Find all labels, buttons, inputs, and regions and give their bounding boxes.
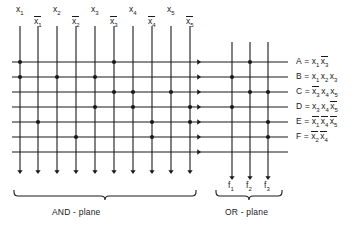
and-dot-B-x2 — [55, 75, 59, 79]
and-dot-A-x3b — [112, 60, 116, 64]
equals-sign: = — [305, 86, 310, 96]
or-dot-C-f2 — [248, 90, 252, 94]
output-label-f1: f1 — [228, 181, 234, 192]
output-label-f3: f3 — [264, 181, 270, 192]
equation-name-A: A — [296, 56, 302, 66]
or-dot-F-f3 — [266, 135, 270, 139]
input-label-x1: x1 — [16, 5, 24, 16]
equals-sign: = — [305, 101, 310, 111]
or-dot-B-f1 — [230, 75, 234, 79]
equation-B: B=x1x2x3 — [296, 72, 339, 83]
and-dot-F-x2b — [74, 135, 78, 139]
or-plane-label: OR - plane — [225, 208, 268, 217]
equals-sign: = — [304, 56, 309, 66]
equation-C: C=x3x4x5 — [296, 87, 339, 98]
input-label-x3b: x3 — [110, 17, 118, 28]
equation-name-D: D — [296, 101, 302, 111]
equals-sign: = — [304, 131, 309, 141]
and-dot-B-x3 — [93, 75, 97, 79]
and-plane-label: AND - plane — [52, 208, 101, 217]
or-dot-C-f3 — [266, 90, 270, 94]
equation-name-E: E — [296, 116, 302, 126]
and-dot-E-x1b — [36, 120, 40, 124]
and-dot-E-x4b — [150, 120, 154, 124]
and-dot-C-x5 — [169, 90, 173, 94]
and-dot-F-x4b — [150, 135, 154, 139]
equation-name-B: B — [296, 71, 302, 81]
input-label-x4: x4 — [129, 5, 137, 16]
and-dot-D-x4 — [131, 105, 135, 109]
equals-sign: = — [304, 71, 309, 81]
input-label-x3: x3 — [91, 5, 99, 16]
input-label-x2: x2 — [53, 5, 61, 16]
equation-E: E=x1x4x5 — [296, 117, 339, 128]
equals-sign: = — [304, 116, 309, 126]
output-label-f2: f2 — [246, 181, 252, 192]
and-dot-C-x3b — [112, 90, 116, 94]
input-label-x5b: x5 — [186, 17, 194, 28]
input-label-x2b: x2 — [72, 17, 80, 28]
input-label-x1b: x1 — [34, 17, 42, 28]
and-plane-brace — [14, 190, 196, 200]
or-dot-A-f2 — [248, 60, 252, 64]
equation-F: F=x2x4 — [296, 132, 329, 143]
and-dot-E-x5b — [188, 120, 192, 124]
and-dot-B-x1 — [18, 75, 22, 79]
equation-name-F: F — [296, 131, 301, 141]
or-dot-D-f1 — [230, 105, 234, 109]
and-dot-A-x1 — [18, 60, 22, 64]
equation-name-C: C — [296, 86, 302, 96]
input-label-x5: x5 — [167, 5, 175, 16]
pla-diagram: x1x1x2x2x3x3x4x4x5x5 A=x1x3B=x1x2x3C=x3x… — [0, 0, 360, 234]
or-dot-E-f3 — [266, 120, 270, 124]
equation-D: D=x3x4x5 — [296, 102, 339, 113]
and-dot-D-x3 — [93, 105, 97, 109]
equation-A: A=x1x3 — [296, 57, 330, 68]
input-label-x4b: x4 — [148, 17, 156, 28]
and-dot-D-x5b — [188, 105, 192, 109]
and-dot-C-x4 — [131, 90, 135, 94]
